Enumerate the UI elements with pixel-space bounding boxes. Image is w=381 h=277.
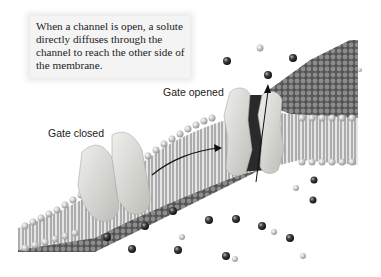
gate-opened-label: Gate opened — [163, 86, 224, 98]
arrow-up-icon — [264, 84, 271, 93]
closed-channel-protein — [78, 132, 150, 221]
gate-closed-label: Gate closed — [48, 127, 104, 139]
open-channel-protein — [224, 88, 284, 175]
